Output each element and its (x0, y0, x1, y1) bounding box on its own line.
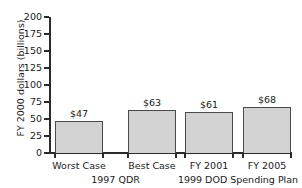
bar-value-label: $61 (185, 99, 233, 110)
x-group-label: 1999 DOD Spending Plan (165, 174, 302, 185)
x-tick (54, 153, 55, 158)
y-tick-25 (44, 135, 49, 136)
x-tick (127, 153, 128, 158)
y-tick-200 (44, 16, 49, 17)
bar-value-label: $63 (128, 97, 176, 108)
y-tick-175 (44, 33, 49, 34)
y-tick-75 (44, 101, 49, 102)
bar (243, 107, 291, 153)
bar-chart-figure: FY 2000 dollars (billions) 0255075100125… (0, 0, 302, 188)
y-tick-0 (44, 152, 49, 153)
bar-value-label: $47 (55, 108, 103, 119)
x-tick (102, 153, 103, 158)
x-tick (184, 153, 185, 158)
y-tick-label-100: 100 (0, 79, 42, 90)
y-tick-label-150: 150 (0, 45, 42, 56)
y-tick-label-125: 125 (0, 62, 42, 73)
y-tick-100 (44, 84, 49, 85)
y-tick-label-175: 175 (0, 28, 42, 39)
y-tick-50 (44, 118, 49, 119)
plot-area: $47$63$61$68 (49, 17, 292, 153)
y-tick-label-0: 0 (0, 147, 42, 158)
x-category-label: Worst Case (41, 160, 117, 171)
y-tick-150 (44, 50, 49, 51)
bar (128, 110, 176, 153)
x-tick (242, 153, 243, 158)
bar-value-label: $68 (243, 94, 291, 105)
y-tick-label-75: 75 (0, 96, 42, 107)
y-axis-line (49, 17, 51, 153)
x-tick (232, 153, 233, 158)
x-tick (290, 153, 291, 158)
y-tick-125 (44, 67, 49, 68)
y-tick-label-25: 25 (0, 130, 42, 141)
bar (185, 112, 233, 153)
y-tick-label-200: 200 (0, 11, 42, 22)
y-tick-label-50: 50 (0, 113, 42, 124)
x-tick (175, 153, 176, 158)
bar (55, 121, 103, 153)
x-category-label: FY 2005 (229, 160, 302, 171)
